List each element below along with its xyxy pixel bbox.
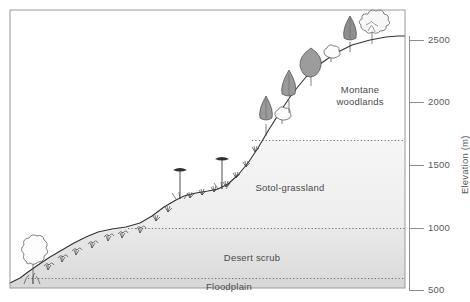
axis-title-elevation: Elevation (m) (459, 135, 470, 194)
zone-label-montane-line2: woodlands (322, 96, 398, 108)
axis-tick-label-2000: 2000 (428, 96, 450, 107)
axis-tick-label-2500: 2500 (428, 34, 450, 45)
zone-label-sotol-grassland: Sotol-grassland (238, 182, 342, 193)
zone-label-montane-line1: Montane (322, 84, 398, 96)
elevation-axis (409, 36, 424, 291)
zone-label-montane-woodlands: Montane woodlands (322, 84, 398, 108)
axis-tick-label-1000: 1000 (428, 222, 450, 233)
axis-tick-label-1500: 1500 (428, 159, 450, 170)
zone-label-floodplain: Floodplain (176, 281, 282, 292)
axis-tick-label-500: 500 (428, 284, 444, 295)
zone-label-desert-scrub: Desert scrub (196, 252, 308, 263)
